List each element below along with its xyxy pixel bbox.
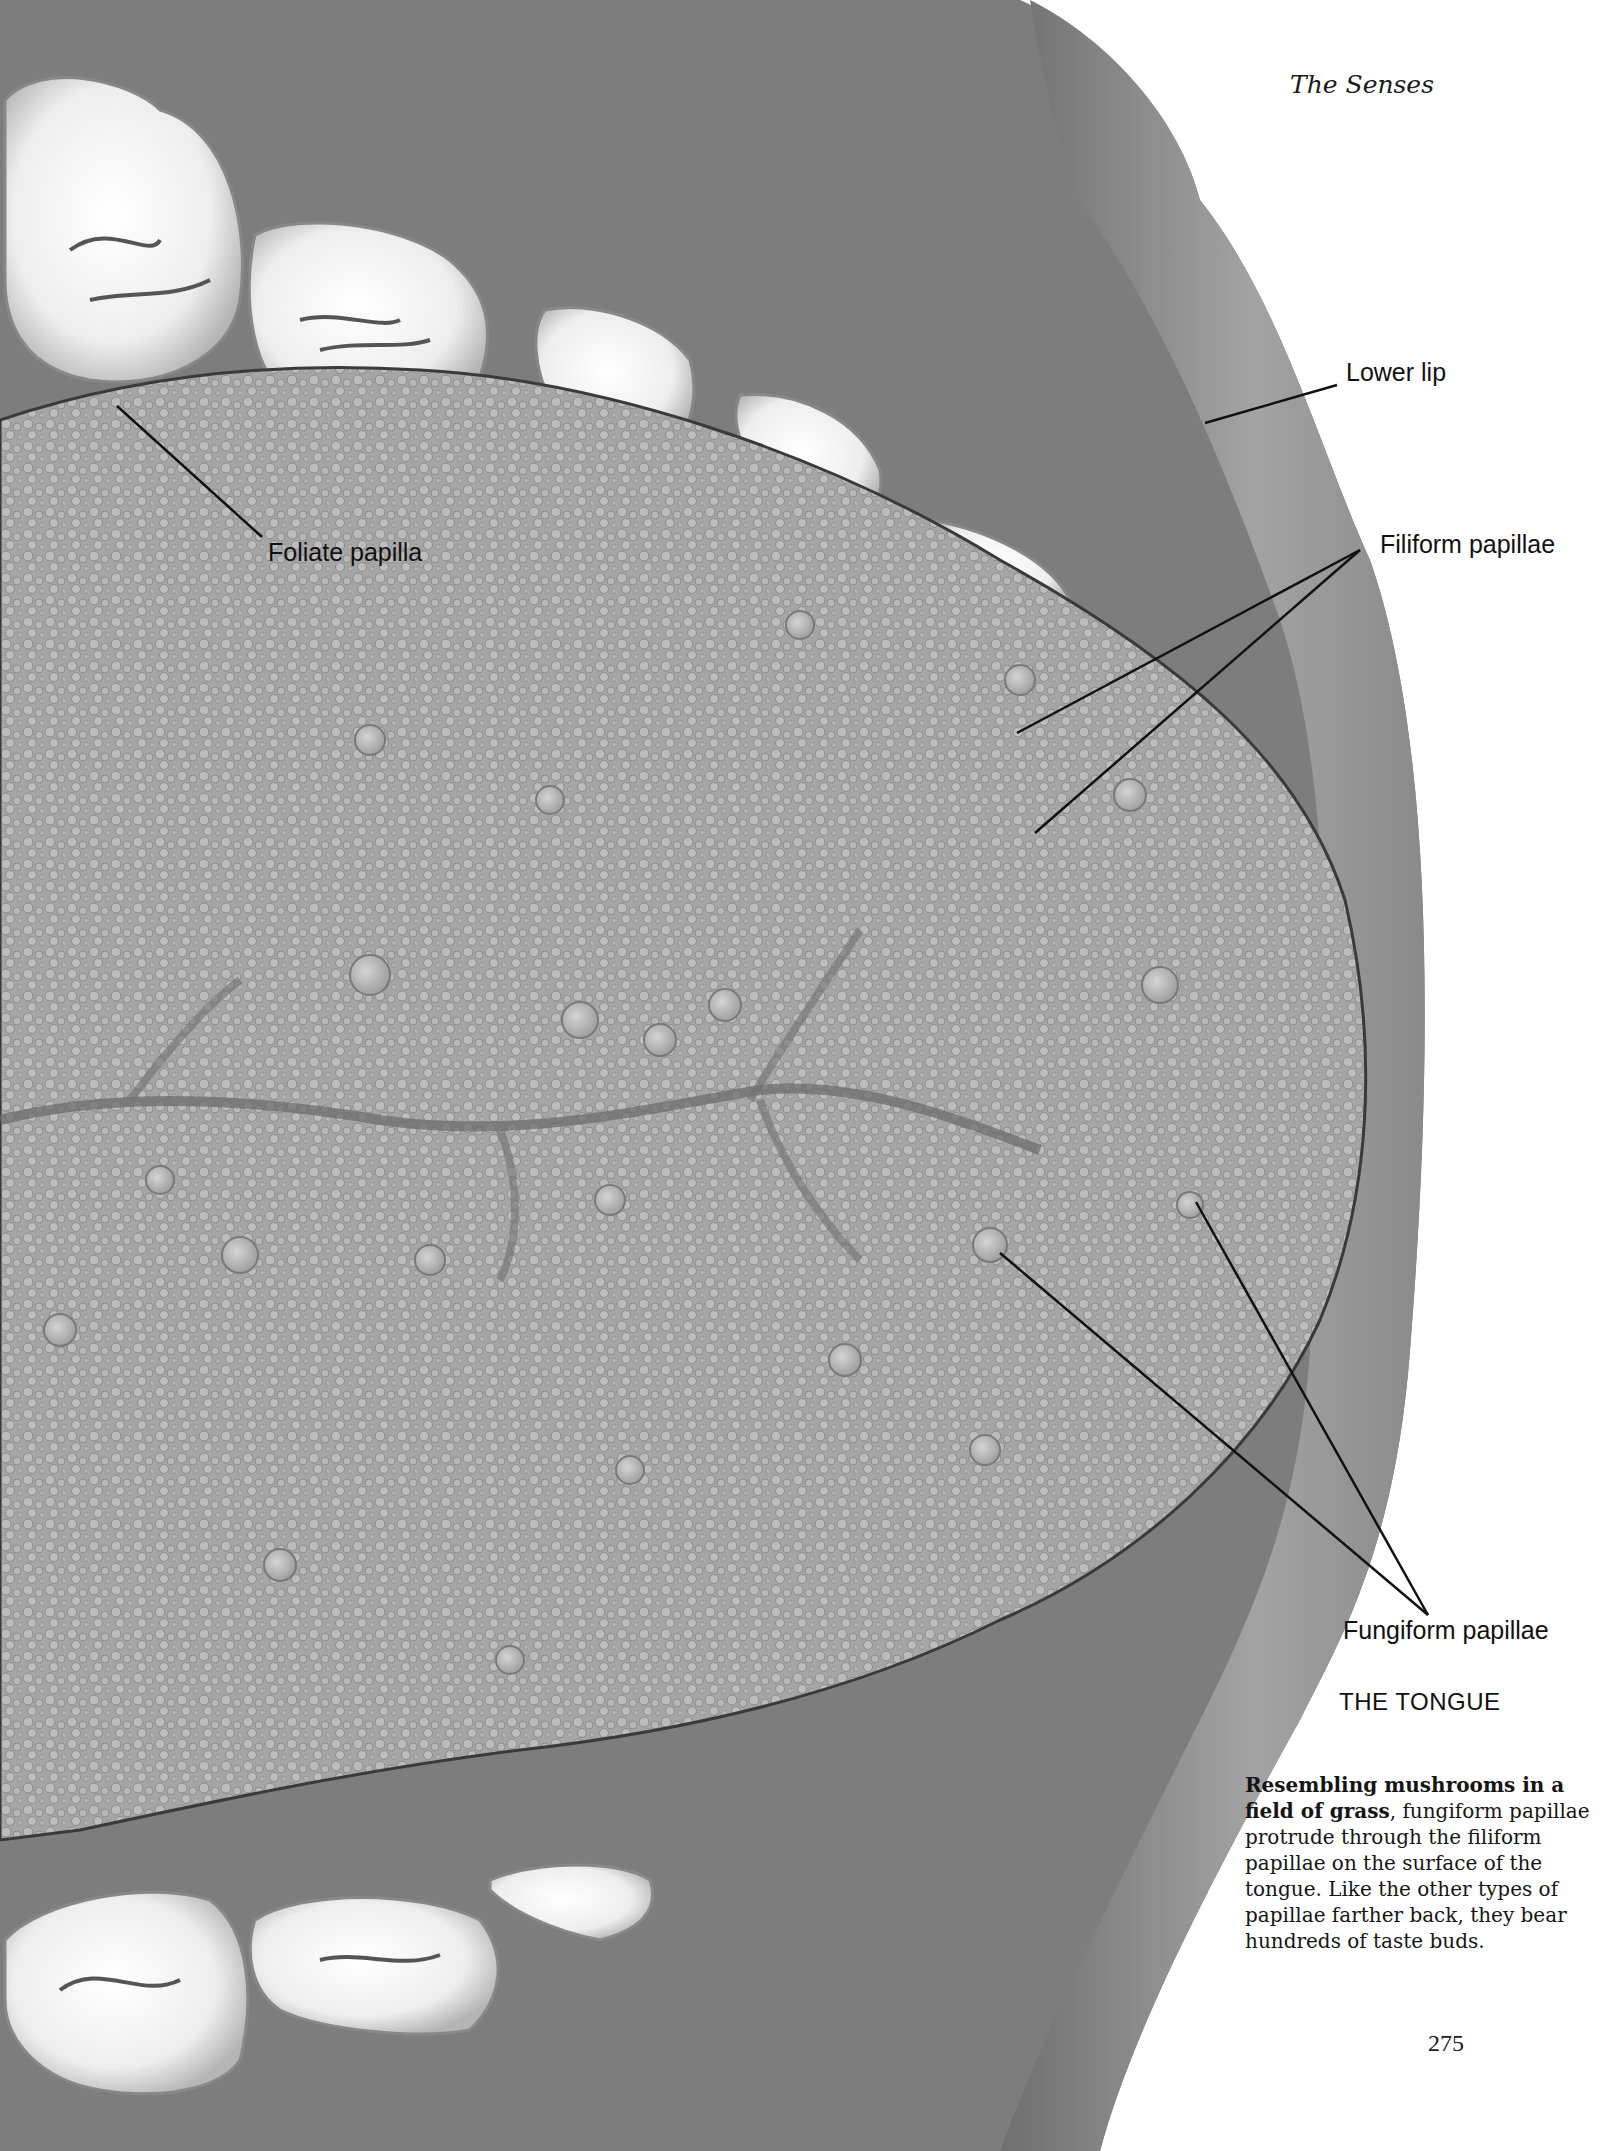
figure-title: THE TONGUE [1339, 1688, 1500, 1716]
running-head: The Senses [1290, 70, 1434, 99]
label-filiform-papillae: Filiform papillae [1380, 530, 1555, 559]
label-lower-lip: Lower lip [1346, 358, 1446, 387]
page-number: 275 [1428, 2030, 1464, 2057]
figure-caption: Resembling mushrooms in a field of grass… [1245, 1772, 1605, 1954]
label-foliate-papilla: Foliate papilla [268, 538, 422, 567]
label-fungiform-papillae: Fungiform papillae [1343, 1616, 1549, 1645]
